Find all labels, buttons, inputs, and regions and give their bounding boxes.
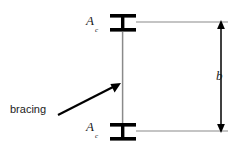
top-i-section-lower-flange xyxy=(110,28,136,32)
label-area-top-subscript: c xyxy=(95,26,98,34)
label-area-bottom-subscript: c xyxy=(95,132,98,140)
diagram-svg xyxy=(0,0,248,153)
top-i-section-web xyxy=(121,17,124,29)
bottom-i-section-lower-flange xyxy=(110,137,136,141)
label-area-top-symbol: A xyxy=(86,13,94,28)
dimension-arrowhead-up-icon xyxy=(217,20,225,29)
label-area-bottom-symbol: A xyxy=(86,119,94,134)
top-i-section-icon xyxy=(110,14,136,32)
label-bracing: bracing xyxy=(10,104,46,115)
bottom-i-section-web xyxy=(121,126,124,138)
bottom-i-section-icon xyxy=(110,123,136,141)
label-area-bottom: Ac xyxy=(86,120,97,137)
bracing-leader-shaft xyxy=(58,87,114,116)
figure-canvas: Ac Ac b bracing xyxy=(0,0,248,153)
bracing-leader-arrow-icon xyxy=(58,83,121,115)
dimension-arrowhead-down-icon xyxy=(217,124,225,133)
label-dimension-b: b xyxy=(216,69,223,82)
label-area-top: Ac xyxy=(86,14,97,31)
